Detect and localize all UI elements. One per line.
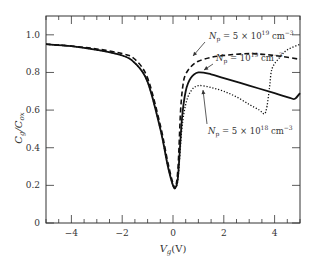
y-axis-label: Cg/Cox xyxy=(13,112,26,143)
data-series xyxy=(46,44,300,188)
y-tick-label: 1.0 xyxy=(26,30,41,40)
x-tick-label: −4 xyxy=(65,228,79,238)
y-tick-label: 0.4 xyxy=(26,143,41,153)
series-solid xyxy=(46,44,300,188)
x-tick-label: 0 xyxy=(170,228,176,238)
cv-chart: −4−2024 00.20.40.60.81.0 Np = 5 × 1019 c… xyxy=(0,0,313,265)
series-annotation: Np = 5 × 1018 cm−3 xyxy=(207,124,293,138)
y-tick-label: 0.8 xyxy=(26,67,41,77)
y-tick-label: 0 xyxy=(34,218,40,228)
x-axis-label: Vg(V) xyxy=(160,243,187,256)
x-tick-label: 4 xyxy=(272,228,278,238)
x-tick-label: 2 xyxy=(221,228,227,238)
series-annotation: Np = 1019 cm−3 xyxy=(215,51,283,65)
y-tick-label: 0.2 xyxy=(26,180,40,190)
y-tick-label: 0.6 xyxy=(26,105,41,115)
x-tick-label: −2 xyxy=(116,228,129,238)
series-annotation: Np = 5 × 1019 cm−3 xyxy=(208,29,294,43)
series-dotted xyxy=(46,44,300,188)
series-dashed xyxy=(46,44,300,188)
